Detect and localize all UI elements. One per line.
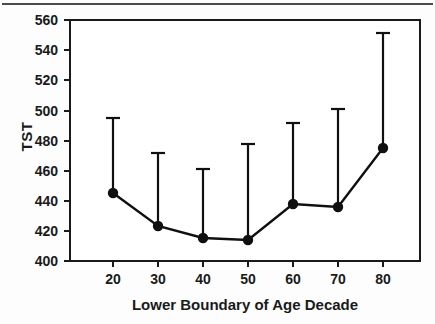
data-point-50 — [243, 235, 253, 245]
data-point-20 — [108, 188, 118, 198]
x-tick-label-30: 30 — [138, 272, 178, 286]
x-tick-label-40: 40 — [183, 272, 223, 286]
plot-area-frame — [70, 20, 420, 261]
y-tick-label-560: 560 — [18, 13, 58, 27]
y-tick-label-520: 520 — [18, 73, 58, 87]
data-point-30 — [153, 221, 163, 231]
y-tick-label-460: 460 — [18, 164, 58, 178]
x-tick-label-80: 80 — [363, 272, 403, 286]
y-tick-label-540: 540 — [18, 43, 58, 57]
y-axis-title: TST — [18, 115, 35, 159]
data-point-70 — [333, 202, 343, 212]
x-tick-label-70: 70 — [318, 272, 358, 286]
x-axis-title: Lower Boundary of Age Decade — [70, 296, 420, 313]
data-point-60 — [288, 199, 298, 209]
data-point-80 — [378, 143, 388, 153]
y-tick-label-400: 400 — [18, 254, 58, 268]
y-tick-label-440: 440 — [18, 194, 58, 208]
x-tick-label-60: 60 — [273, 272, 313, 286]
figure-canvas: 560 540 520 500 480 460 440 420 400 20 3… — [0, 0, 435, 324]
data-point-40 — [198, 233, 208, 243]
x-tick-label-50: 50 — [228, 272, 268, 286]
y-tick-label-420: 420 — [18, 224, 58, 238]
x-tick-label-20: 20 — [93, 272, 133, 286]
